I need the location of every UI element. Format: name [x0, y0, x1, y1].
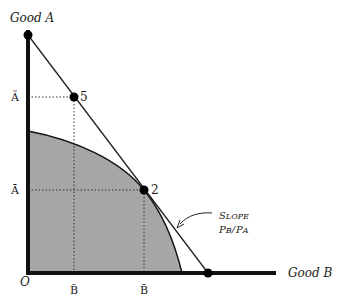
point-5-label: 5: [80, 90, 88, 104]
point-5: [70, 93, 79, 102]
slope-label: SLOPE: [219, 210, 249, 221]
ppf-diagram: 5 2 Good A Good B O Ã Ā B̃ B̄ SLOPE PB/P…: [0, 0, 340, 302]
x-tick-b-tilde: B̃: [70, 284, 78, 297]
y-tick-a-bar: Ā: [10, 184, 20, 197]
slope-arrow: [180, 213, 212, 224]
y-axis-title: Good A: [10, 11, 55, 25]
slope-ratio: PB/PA: [218, 224, 249, 235]
ppf-region: [28, 131, 182, 273]
origin-label: O: [20, 275, 30, 289]
point-top-intercept: [24, 31, 33, 40]
y-tick-a-tilde: Ã: [10, 90, 20, 104]
x-axis-title: Good B: [288, 266, 333, 280]
point-bottom-intercept: [204, 269, 213, 278]
x-tick-b-bar: B̄: [140, 284, 148, 297]
point-2-label: 2: [151, 183, 159, 197]
point-2: [140, 186, 149, 195]
